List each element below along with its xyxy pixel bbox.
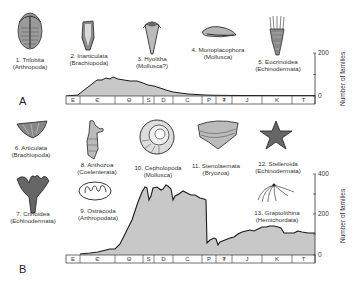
- crinoid-icon: [17, 175, 49, 213]
- y-tick-label: 200: [318, 210, 329, 217]
- period-label: T: [292, 255, 315, 263]
- taxon-label-12: 12. Stelleroida(Echinodermata): [252, 160, 304, 174]
- taxon-label-7: 7. Crinoidea(Echinodermata): [6, 210, 60, 224]
- y-axis-title: Number of families: [339, 189, 346, 243]
- taxon-label-3: 3. Hyolitha(Mollusca?): [131, 55, 173, 69]
- y-tick-label: 0: [318, 251, 322, 258]
- period-label: P: [202, 255, 216, 263]
- taxon-label-10: 10. Cepholopoda(Mollusca): [131, 164, 185, 178]
- period-label: P: [202, 96, 216, 104]
- taxon-label-6: 6. Articulata(Brachiopoda): [8, 144, 54, 158]
- taxon-label-1: 1. Trilobita(Arthropoda): [10, 56, 50, 70]
- period-label: J: [232, 255, 262, 263]
- coral-icon: [87, 121, 103, 160]
- taxon-label-4: 4. Monoplacophora(Mollusca): [188, 46, 248, 60]
- trilobite-icon: [18, 13, 42, 49]
- y-tick-label: 400: [318, 170, 329, 177]
- period-label: C: [173, 255, 202, 263]
- taxon-label-11: 11. Stenolaemata(Bryozoa): [189, 162, 243, 176]
- y-axis-title: Number of families: [339, 52, 346, 106]
- inarticulate-brachiopod-icon: [82, 21, 94, 50]
- period-label: J: [232, 96, 262, 104]
- period-label: Є: [80, 96, 115, 104]
- period-label: E: [66, 96, 80, 104]
- ammonite-icon: [140, 120, 174, 154]
- taxon-label-9: 9. Ostracoda(Arthropodata): [73, 207, 123, 221]
- hyolith-icon: [143, 22, 161, 55]
- period-label: D: [154, 255, 173, 263]
- panel-letter-b: B: [19, 263, 26, 275]
- panel-letter-a: A: [19, 95, 26, 107]
- taxon-label-8: 8. Anthozoa(Coelenterata): [72, 161, 122, 175]
- period-label: ₮: [216, 96, 232, 104]
- eocrinoid-icon: [270, 16, 284, 55]
- taxon-label-2: 2. Inarticulata(Brachiopoda): [67, 52, 111, 66]
- bryozoan-icon: [198, 121, 238, 149]
- period-label: K: [262, 255, 292, 263]
- period-label: S: [143, 96, 154, 104]
- ostracod-icon: [79, 182, 111, 200]
- period-label: K: [262, 96, 292, 104]
- period-label: S: [143, 255, 154, 263]
- taxon-label-5: 5. Eocrinoidea(Echinodermata): [253, 58, 303, 72]
- period-label: C: [173, 96, 202, 104]
- articulate-brachiopod-icon: [17, 121, 47, 138]
- period-label: Є: [80, 255, 115, 263]
- monoplacophoran-icon: [203, 27, 237, 37]
- y-tick-label: 0: [318, 92, 322, 99]
- period-label: D: [154, 96, 173, 104]
- diversity-figure: [0, 0, 356, 283]
- starfish-icon: [260, 121, 292, 149]
- period-label: Θ: [115, 96, 143, 104]
- period-label: ₮: [216, 255, 232, 263]
- period-label: E: [66, 255, 80, 263]
- period-label: Θ: [115, 255, 143, 263]
- y-tick-label: 200: [318, 49, 329, 56]
- taxon-label-13: 13. Graptolithina(Hemichordata): [250, 209, 304, 223]
- graptolite-icon: [258, 184, 294, 203]
- period-label: T: [292, 96, 315, 104]
